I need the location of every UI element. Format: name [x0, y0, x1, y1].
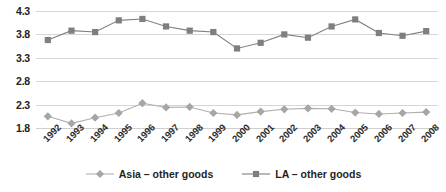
diamond-marker-icon — [398, 109, 406, 117]
square-marker-icon — [399, 33, 405, 39]
square-marker-icon — [281, 31, 287, 37]
diamond-marker-icon — [233, 111, 241, 119]
diamond-marker-icon — [162, 103, 170, 111]
square-marker-icon — [187, 28, 193, 34]
square-marker-icon — [163, 23, 169, 29]
data-series — [45, 16, 430, 52]
square-marker-icon — [352, 16, 358, 22]
legend-entry[interactable]: Asia – other goods — [85, 168, 214, 180]
square-marker-icon — [376, 30, 382, 36]
square-marker-icon — [241, 168, 271, 180]
legend-label: Asia – other goods — [119, 168, 214, 180]
diamond-marker-icon — [280, 105, 288, 113]
diamond-marker-icon — [304, 104, 312, 112]
square-marker-icon — [258, 40, 264, 46]
diamond-marker-icon — [138, 99, 146, 107]
series-layer — [36, 11, 438, 128]
square-marker-icon — [68, 28, 74, 34]
square-marker-icon — [423, 28, 429, 34]
x-axis: 1992199319941995199619971998199920002001… — [36, 129, 438, 159]
diamond-marker-icon — [115, 109, 123, 117]
diamond-marker-icon — [96, 170, 104, 178]
diamond-marker-icon — [186, 103, 194, 111]
diamond-marker-icon — [85, 168, 115, 180]
y-axis-tick-label: 3.8 — [16, 28, 30, 40]
y-axis-tick-label: 4.3 — [16, 5, 30, 17]
diamond-marker-icon — [257, 108, 265, 116]
square-marker-icon — [92, 29, 98, 35]
legend-entry[interactable]: LA – other goods — [241, 168, 361, 180]
y-axis: 1.82.32.83.33.84.3 — [0, 0, 34, 192]
square-marker-icon — [305, 35, 311, 41]
plot-area — [36, 11, 438, 128]
square-marker-icon — [328, 23, 334, 29]
diamond-marker-icon — [327, 105, 335, 113]
square-marker-icon — [116, 17, 122, 23]
square-marker-icon — [45, 37, 51, 43]
diamond-marker-icon — [375, 110, 383, 118]
square-marker-icon — [234, 45, 240, 51]
diamond-marker-icon — [422, 108, 430, 116]
y-axis-tick-label: 2.8 — [16, 75, 30, 87]
diamond-marker-icon — [91, 114, 99, 122]
y-axis-tick-label: 3.3 — [16, 52, 30, 64]
y-axis-tick-label: 1.8 — [16, 122, 30, 134]
chart-legend: Asia – other goodsLA – other goods — [0, 168, 446, 180]
diamond-marker-icon — [44, 112, 52, 120]
y-axis-tick-label: 2.3 — [16, 99, 30, 111]
square-marker-icon — [139, 16, 145, 22]
series-line — [48, 19, 426, 48]
square-marker-icon — [253, 171, 259, 177]
line-chart: 1.82.32.83.33.84.3 199219931994199519961… — [0, 0, 446, 192]
diamond-marker-icon — [351, 108, 359, 116]
square-marker-icon — [210, 29, 216, 35]
legend-label: LA – other goods — [275, 168, 361, 180]
diamond-marker-icon — [209, 109, 217, 117]
